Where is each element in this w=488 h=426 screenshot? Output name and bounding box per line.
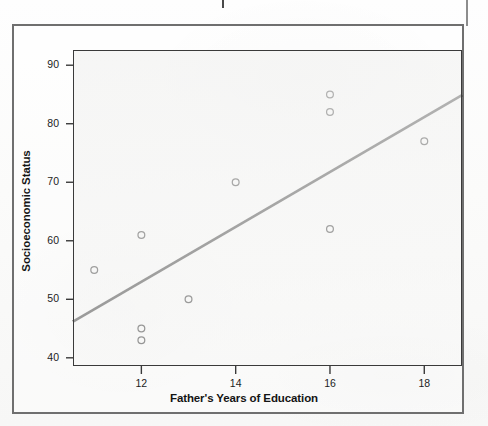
x-tick-label-14: 14: [221, 377, 251, 389]
x-tick-label-18: 18: [409, 377, 439, 389]
y-tick-label-40: 40: [29, 351, 59, 363]
x-tick-label-12: 12: [126, 377, 156, 389]
y-tick-label-70: 70: [29, 175, 59, 187]
x-tick-label-16: 16: [315, 377, 345, 389]
y-tick-label-50: 50: [29, 292, 59, 304]
x-axis-tick-marks: [141, 366, 424, 374]
y-tick-label-80: 80: [29, 117, 59, 129]
scatter-chart: 405060708090 12141618 Father's Years of …: [0, 0, 488, 426]
plot-frame: [73, 50, 462, 366]
x-axis-title: Father's Years of Education: [0, 392, 488, 404]
y-tick-label-90: 90: [29, 58, 59, 70]
y-axis-tick-marks: [66, 65, 73, 358]
y-axis-title: Socioeconomic Status: [20, 121, 32, 301]
y-tick-label-60: 60: [29, 234, 59, 246]
